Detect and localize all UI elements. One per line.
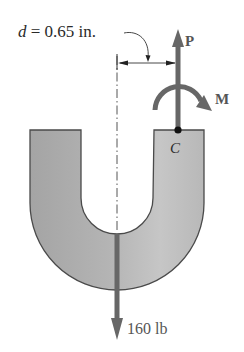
dimension-arrowhead-left-icon	[118, 61, 128, 66]
dimension-d	[117, 32, 176, 70]
point-c-label: C	[170, 140, 181, 156]
moment-m-label: M	[215, 91, 229, 107]
leader-line	[124, 32, 148, 58]
force-p-label: P	[185, 33, 194, 49]
dimension-arrowhead-right-icon	[166, 61, 176, 66]
weight-force-label: 160 lb	[127, 320, 167, 337]
dimension-label: d = 0.65 in.	[18, 22, 96, 41]
point-c-marker	[174, 126, 181, 133]
arrow-up-icon	[172, 29, 184, 47]
leader-arrowhead-icon	[146, 55, 151, 62]
force-p-arrow	[172, 29, 184, 130]
u-bracket-diagram: d = 0.65 in. P M C 160 lb	[0, 0, 244, 352]
arrow-down-icon	[111, 318, 123, 340]
moment-m-arrow	[155, 87, 212, 111]
